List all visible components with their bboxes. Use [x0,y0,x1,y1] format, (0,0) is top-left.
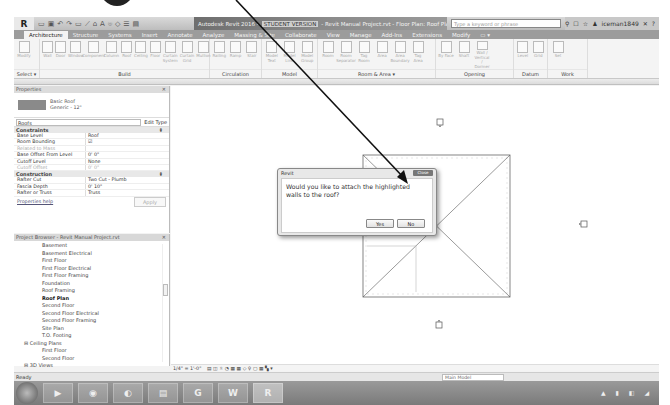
apply-button[interactable]: Apply [134,197,166,207]
browser-item[interactable]: Second Floor Framing [14,317,169,325]
browser-item[interactable]: First Floor Framing [14,272,169,280]
browser-item[interactable]: ⊟ Ceiling Plans [14,340,169,348]
help-icon[interactable]: ? [652,20,655,27]
tab--[interactable]: ▭ ▾ [475,31,495,39]
thin-lines-icon[interactable]: ☰ [123,20,129,28]
redo-icon[interactable]: ↷ [66,20,72,28]
application-menu-button[interactable]: R [14,17,34,30]
browser-item[interactable]: First Floor [14,257,169,265]
tool-by-face[interactable]: By Face [438,41,454,69]
browser-scrollbar[interactable] [162,244,167,362]
browser-item[interactable]: Basement Electrical [14,250,169,258]
taskbar-chrome[interactable]: ◉ [78,383,108,403]
property-value[interactable] [86,146,169,151]
system-tray[interactable]: ▲ ▮ ◧ ◢ [601,389,653,396]
tool-component[interactable]: Component [86,41,102,69]
tab-systems[interactable]: Systems [103,31,136,39]
property-value[interactable]: Truss [86,190,169,195]
tool-tag-room[interactable]: Tag Room [356,41,372,69]
binoculars-icon[interactable]: ⚲ [565,20,569,27]
tag-icon[interactable]: ⌂ [93,20,97,28]
browser-item[interactable]: Site Plan [14,325,169,333]
open-icon[interactable]: ▭ [38,20,45,28]
type-selector[interactable]: Basic Roof Generic - 12" [14,93,169,118]
tab-collaborate[interactable]: Collaborate [280,31,322,39]
print-icon[interactable]: ▭ [75,20,82,28]
panel-label[interactable]: Select ▾ [14,69,39,78]
view-control-icons[interactable]: ▤ ◫ ☼ ◔ ▦ ▦ ◇ ♀ ▢ ▦ ▚ ▾ [207,366,273,371]
tool-roof[interactable]: Roof [121,41,132,69]
tool-area[interactable]: Area [374,41,390,69]
browser-item[interactable]: Second Floor Electrical [14,310,169,318]
tool-tag-area[interactable]: Tag Area [410,41,426,69]
browser-item[interactable]: Second Floor [14,355,169,363]
tool-model-text[interactable]: Model Text [264,41,280,69]
no-button[interactable]: No [397,219,425,228]
undo-icon[interactable]: ↶ [57,20,63,28]
active-model-dropdown[interactable]: Main Model [442,374,504,381]
yes-button[interactable]: Yes [366,219,394,228]
tool-curtain-system[interactable]: Curtain System [163,41,178,69]
tab-massing-site[interactable]: Massing & Site [229,31,280,39]
property-value[interactable]: None [86,159,169,164]
panel-label[interactable]: Circulation [210,69,261,78]
tool-railing[interactable]: Railing [212,41,226,69]
property-value[interactable]: ☑ [86,139,169,144]
tool-floor[interactable]: Floor [150,41,161,69]
tab-extensions[interactable]: Extensions [407,31,447,39]
subscription-icon[interactable]: ☐ [573,20,578,27]
property-value[interactable]: Two Cut - Plumb [86,177,169,182]
tool-modify[interactable]: Modify [16,41,32,69]
browser-item[interactable]: ⊟ 3D Views [14,362,169,370]
user-name[interactable]: iceman1849 [602,20,639,27]
tool-door[interactable]: Door [55,41,66,69]
measure-icon[interactable]: ⟋ [85,20,90,28]
start-button[interactable] [16,382,38,404]
tool-ramp[interactable]: Ramp [228,41,242,69]
edit-type-button[interactable]: Edit Type [144,119,167,125]
tab-view[interactable]: View [322,31,345,39]
tool-room-separator[interactable]: Room Separator [338,41,354,69]
property-value[interactable]: 0' 0" [86,152,169,157]
properties-help-link[interactable]: Properties help [17,199,53,204]
tool-wall-vertical-dormer[interactable]: Wall / Vertical / Dormer [474,41,490,69]
taskbar-app-3[interactable]: ◐ [113,383,143,403]
taskbar-word[interactable]: W [218,383,248,403]
tool-grid[interactable]: Grid [532,41,546,69]
tool-ceiling[interactable]: Ceiling [134,41,148,69]
tab-manage[interactable]: Manage [345,31,377,39]
tool-model-line[interactable]: Model Line [282,41,298,69]
tab-structure[interactable]: Structure [68,31,104,39]
dialog-close-button[interactable]: Close [413,170,433,176]
user-icon[interactable]: ♟ [592,20,597,27]
browser-item[interactable]: First Floor [14,347,169,355]
switch-windows-icon[interactable]: ▤ [133,20,140,28]
browser-item[interactable]: Basement [14,242,169,250]
panel-label[interactable]: Room & Area ▾ [318,69,435,78]
favorites-star-icon[interactable]: ☆ [583,20,588,27]
tool-shaft[interactable]: Shaft [456,41,472,69]
tool-room[interactable]: Room [320,41,336,69]
taskbar-app-g[interactable]: G [183,383,213,403]
panel-label[interactable]: Work [548,69,587,78]
taskbar-file-explorer[interactable]: ▤ [148,383,178,403]
taskbar-media-player[interactable]: ▶ [43,383,73,403]
property-value[interactable]: 0' 10" [86,184,169,189]
tool-wall[interactable]: Wall [42,41,53,69]
browser-item[interactable]: Roof Plan [14,295,169,303]
tool-set[interactable]: Set [550,41,566,69]
tool-mullion[interactable]: Mullion [196,41,210,69]
panel-label[interactable]: Opening [436,69,513,78]
tool-column[interactable]: Column [104,41,119,69]
taskbar-revit[interactable]: R [253,383,283,403]
tab-architecture[interactable]: Architecture [24,31,68,39]
search-input[interactable]: Type a keyword or phrase [451,19,561,28]
panel-label[interactable]: Model [262,69,317,78]
instance-filter-dropdown[interactable]: Roofs [16,119,141,126]
browser-item[interactable]: First Floor Electrical [14,265,169,273]
tab-analyze[interactable]: Analyze [198,31,230,39]
panel-label[interactable]: Build [40,69,209,78]
view-scale[interactable]: 1/4" = 1'-0" [173,366,201,371]
panel-label[interactable]: Datum [514,69,547,78]
text-icon[interactable]: A [100,20,105,28]
